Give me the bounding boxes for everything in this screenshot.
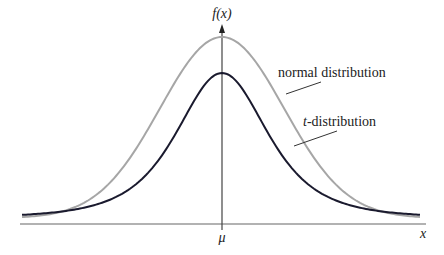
normal-leader-line <box>286 82 321 94</box>
t-distribution-label: t-distribution <box>303 114 376 129</box>
y-axis-label: f(x) <box>212 6 232 22</box>
t-distribution-curve <box>22 73 420 215</box>
t-suffix: -distribution <box>307 114 376 129</box>
normal-distribution-label: normal distribution <box>278 65 386 80</box>
chart-svg: f(x) x μ normal distribution t-distribut… <box>0 0 444 255</box>
distribution-figure: f(x) x μ normal distribution t-distribut… <box>0 0 444 255</box>
x-axis-label: x <box>419 226 427 241</box>
mu-tick-label: μ <box>217 230 225 245</box>
y-axis-arrow-icon <box>219 24 225 33</box>
